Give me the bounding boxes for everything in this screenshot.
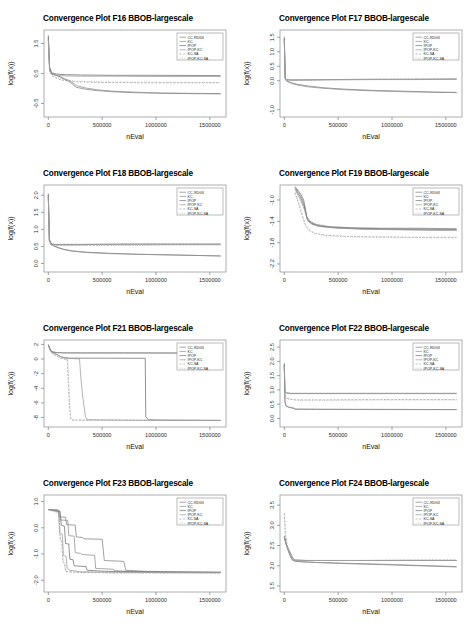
y-tick-label: -1.0: [33, 549, 39, 559]
y-tick-label: -2: [33, 371, 39, 376]
legend: CC-RDG3KCIPOPIPOP-KCKC-SAIPOP-KC-SA: [413, 188, 459, 216]
plot-canvas-f22: 0500000100000015000000.00.51.01.52.02.5n…: [236, 310, 472, 465]
y-tick-label: -0.5: [33, 99, 39, 109]
x-axis-label: nEval: [126, 288, 144, 295]
x-tick-label: 1000000: [145, 597, 167, 603]
legend-label-ipop-kc-sa: IPOP-KC-SA: [188, 212, 209, 216]
y-tick-label: 3.0: [269, 521, 275, 529]
x-axis-label: nEval: [362, 608, 380, 615]
x-tick-label: 0: [47, 597, 50, 603]
y-axis-label: log(f(x)): [243, 61, 251, 85]
plot-canvas-f23: 050000010000001500000-2.0-1.00.01.0nEval…: [0, 465, 236, 630]
x-tick-label: 500000: [329, 432, 348, 438]
x-tick-label: 1500000: [435, 432, 457, 438]
legend: CC-RDG3KCIPOPIPOP-KCKC-SAIPOP-KC-SA: [177, 343, 223, 371]
y-tick-label: -6: [33, 400, 39, 405]
y-axis-label: log(f(x)): [7, 216, 15, 240]
plot-canvas-f19: 050000010000001500000-2.2-1.8-1.4-1.0nEv…: [236, 155, 472, 310]
legend: CC-RDG3KCIPOPIPOP-KCKC-SAIPOP-KC-SA: [413, 498, 459, 526]
x-tick-label: 0: [283, 597, 286, 603]
series-line-kc: [284, 537, 456, 566]
legend: CC-RDG3KCIPOPIPOP-KCKC-SAIPOP-KC-SA: [177, 498, 223, 526]
y-tick-label: -4: [33, 386, 39, 391]
x-tick-label: 1000000: [145, 277, 167, 283]
y-tick-label: 1.0: [269, 48, 275, 56]
legend-label-ipop-kc-sa: IPOP-KC-SA: [188, 367, 209, 371]
y-axis-label: log(f(x)): [243, 216, 251, 240]
x-tick-label: 500000: [93, 597, 112, 603]
y-axis-label: log(f(x)): [243, 371, 251, 395]
legend: CC-RDG3KCIPOPIPOP-KCKC-SAIPOP-KC-SA: [413, 33, 459, 61]
x-axis-label: nEval: [126, 443, 144, 450]
y-tick-label: 2.5: [269, 542, 275, 550]
x-tick-label: 1500000: [199, 277, 221, 283]
x-tick-label: 1000000: [381, 432, 403, 438]
x-tick-label: 500000: [329, 122, 348, 128]
legend-label-ipop-kc-sa: IPOP-KC-SA: [188, 522, 209, 526]
plot-canvas-f16: 050000010000001500000-0.50.51.5nEvallog(…: [0, 0, 236, 155]
x-tick-label: 1500000: [199, 432, 221, 438]
y-tick-label: 1.5: [33, 40, 39, 48]
x-tick-label: 500000: [329, 277, 348, 283]
y-tick-label: 0.0: [33, 524, 39, 532]
y-tick-label: 1.0: [33, 225, 39, 233]
y-tick-label: -1.0: [269, 105, 275, 115]
y-tick-label: 2.5: [269, 343, 275, 351]
x-tick-label: 0: [283, 122, 286, 128]
x-axis-label: nEval: [362, 288, 380, 295]
y-tick-label: 0.0: [269, 77, 275, 85]
legend: CC-RDG3KCIPOPIPOP-KCKC-SAIPOP-KC-SA: [413, 343, 459, 371]
y-tick-label: 1.0: [33, 498, 39, 506]
legend-label-ipop-kc-sa: IPOP-KC-SA: [188, 57, 209, 61]
series-line-ipop-kc: [284, 536, 456, 560]
plot-panel-f22: Convergence Plot F22 BBOB-largescale0500…: [236, 310, 472, 465]
y-tick-label: 1.5: [269, 33, 275, 41]
y-tick-label: 0.5: [269, 400, 275, 408]
x-tick-label: 0: [47, 432, 50, 438]
x-tick-label: 1500000: [435, 122, 457, 128]
y-tick-label: 2: [33, 343, 39, 346]
plot-canvas-f18: 0500000100000015000000.00.51.01.52.0nEva…: [0, 155, 236, 310]
legend: CC-RDG3KCIPOPIPOP-KCKC-SAIPOP-KC-SA: [177, 188, 223, 216]
series-line-kc: [284, 364, 456, 409]
x-axis-label: nEval: [126, 608, 144, 615]
y-tick-label: -1.0: [269, 195, 275, 205]
y-tick-label: 1.5: [269, 372, 275, 380]
plot-panel-f17: Convergence Plot F17 BBOB-largescale0500…: [236, 0, 472, 155]
legend-label-ipop-kc-sa: IPOP-KC-SA: [424, 522, 445, 526]
x-tick-label: 1500000: [199, 122, 221, 128]
x-tick-label: 1500000: [435, 277, 457, 283]
y-tick-label: 0: [33, 357, 39, 360]
y-tick-label: 0.5: [33, 243, 39, 251]
x-axis-label: nEval: [362, 443, 380, 450]
x-tick-label: 500000: [329, 597, 348, 603]
y-tick-label: 3.5: [269, 501, 275, 509]
plot-panel-f18: Convergence Plot F18 BBOB-largescale0500…: [0, 155, 236, 310]
y-axis-label: log(f(x)): [7, 531, 15, 555]
y-tick-label: -2.2: [269, 259, 275, 269]
y-tick-label: 2.0: [33, 191, 39, 199]
x-tick-label: 1500000: [435, 597, 457, 603]
x-tick-label: 500000: [93, 432, 112, 438]
x-tick-label: 0: [47, 277, 50, 283]
y-tick-label: -2.0: [33, 575, 39, 585]
y-tick-label: 0.0: [33, 260, 39, 268]
y-tick-label: 0.5: [33, 70, 39, 78]
x-tick-label: 0: [283, 277, 286, 283]
legend: CC-RDG3KCIPOPIPOP-KCKC-SAIPOP-KC-SA: [177, 33, 223, 61]
y-tick-label: -1.8: [269, 238, 275, 248]
plot-panel-f24: Convergence Plot F24 BBOB-largescale0500…: [236, 465, 472, 630]
plot-panel-f19: Convergence Plot F19 BBOB-largescale0500…: [236, 155, 472, 310]
series-line-ipop-kc-sa: [284, 367, 456, 400]
series-line-ipop: [284, 536, 456, 561]
x-tick-label: 1000000: [145, 432, 167, 438]
y-axis-label: log(f(x)): [243, 531, 251, 555]
x-tick-label: 0: [47, 122, 50, 128]
x-tick-label: 1000000: [381, 277, 403, 283]
y-tick-label: 1.5: [33, 208, 39, 216]
y-tick-label: 0.0: [269, 415, 275, 423]
legend-label-ipop-kc-sa: IPOP-KC-SA: [424, 367, 445, 371]
plot-panel-f16: Convergence Plot F16 BBOB-largescale0500…: [0, 0, 236, 155]
y-tick-label: 2.0: [269, 562, 275, 570]
y-axis-label: log(f(x)): [7, 371, 15, 395]
